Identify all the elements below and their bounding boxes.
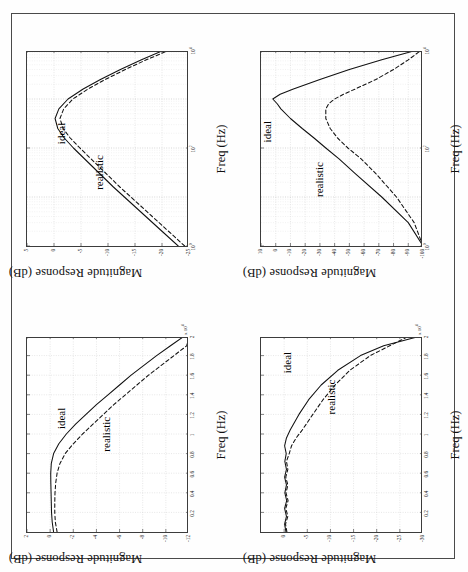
panel-bottom-right-xtick: 1 <box>423 434 429 437</box>
panel-bottom-right-xtick: 0.6 <box>423 471 429 477</box>
panel-bottom-left-xtick: 1.6 <box>189 373 195 379</box>
panel-top-left-xtick: 100 <box>189 244 196 251</box>
panel-bottom-right-xtick: 1.6 <box>423 373 429 379</box>
panel-bottom-right-annotation-realistic: realistic <box>325 379 337 414</box>
panel-top-right-ytick: -40 <box>331 249 337 256</box>
panel-bottom-right-xtick: 2 <box>423 336 429 339</box>
panel-bottom-right-ytick: 0 <box>280 535 286 538</box>
panel-top-right-ytick: -50 <box>345 249 351 256</box>
panel-top-left-ytick: -10 <box>104 249 110 256</box>
panel-top-left-xticks: 100102104 <box>189 51 203 247</box>
panel-bottom-left-xticks: 0.20.40.60.811.21.41.61.82x 104 <box>189 337 203 533</box>
panel-bottom-right-xtick: 0.2 <box>423 510 429 516</box>
panel-bottom-right-ytick: -20 <box>373 535 379 542</box>
panel-top-left-ytick: -15 <box>131 249 137 256</box>
panel-bottom-right-rotated: Magnitude Response (dB) 0-5-10-15-20-25-… <box>252 307 468 572</box>
panel-bottom-left-x-multiplier: x 104 <box>181 324 188 335</box>
panel-top-right-ytick: -70 <box>375 249 381 256</box>
panel-top-right-xtick: 102 <box>423 146 430 153</box>
panel-bottom-left-xtick: 0.6 <box>189 471 195 477</box>
panel-top-left: Magnitude Response (dB) 50-5-10-15-20-25… <box>12 14 246 300</box>
panel-top-left-xlabel: Freq (Hz) <box>214 51 229 247</box>
panel-bottom-right-xtick: 0.8 <box>423 451 429 457</box>
panel-bottom-left-rotated: Magnitude Response (dB) 20-2-4-6-8-10-12… <box>18 307 240 572</box>
panel-top-left-plot-area: idealrealistic <box>26 51 188 247</box>
panel-bottom-left-xtick: 1 <box>189 434 195 437</box>
panel-bottom-left-svg: idealrealistic <box>27 337 188 532</box>
panel-bottom-right-annotation-ideal: ideal <box>281 352 293 373</box>
panel-top-left-svg: idealrealistic <box>27 51 188 246</box>
panel-bottom-left-ytick: -10 <box>162 535 168 542</box>
panel-bottom-left-ytick: -6 <box>116 535 122 539</box>
panel-bottom-right-xlabel: Freq (Hz) <box>448 337 463 533</box>
panel-top-left-xtick: 104 <box>189 48 196 55</box>
panel-bottom-left: Magnitude Response (dB) 20-2-4-6-8-10-12… <box>12 300 246 572</box>
panel-bottom-right-ytick: -15 <box>350 535 356 542</box>
panel-top-right-annotation-realistic: realistic <box>313 162 325 197</box>
panel-bottom-left-ytick: -8 <box>139 535 145 539</box>
panel-top-right: Magnitude Response (dB) 100-10-20-30-40-… <box>246 14 468 300</box>
panel-bottom-left-ytick: -12 <box>185 535 191 542</box>
panel-top-left-ytick: 0 <box>50 249 56 252</box>
panel-top-left-annotation-ideal: ideal <box>55 123 67 144</box>
panel-top-left-ytick: 5 <box>23 249 29 252</box>
panel-bottom-left-xtick: 0.4 <box>189 491 195 497</box>
panel-bottom-left-ytick: 2 <box>23 535 29 538</box>
panel-top-right-xlabel: Freq (Hz) <box>448 51 463 247</box>
panel-bottom-right-xticks: 0.20.40.60.811.21.41.61.82x 104 <box>423 337 437 533</box>
panel-top-left-ytick: -5 <box>77 249 83 253</box>
panel-bottom-left-xtick: 1.2 <box>189 412 195 418</box>
figure-frame: Magnitude Response (dB) 50-5-10-15-20-25… <box>11 13 455 559</box>
panel-bottom-left-xtick: 0.2 <box>189 510 195 516</box>
panel-top-right-xticks: 100102104 <box>423 51 437 247</box>
panel-top-right-ytick: 10 <box>257 249 263 254</box>
panel-bottom-right-xtick: 1.4 <box>423 393 429 399</box>
panel-bottom-left-xlabel: Freq (Hz) <box>214 337 229 533</box>
panel-bottom-left-yticks: 20-2-4-6-8-10-12 <box>26 535 188 565</box>
panel-top-right-xtick: 100 <box>423 244 430 251</box>
panel-bottom-left-plot-area: idealrealistic <box>26 337 188 533</box>
panel-bottom-left-annotation-realistic: realistic <box>100 417 112 452</box>
panel-top-left-xtick: 102 <box>189 146 196 153</box>
panel-top-right-yticks: 100-10-20-30-40-50-60-70-80-90-100 <box>260 249 422 279</box>
panel-bottom-left-annotation-ideal: ideal <box>55 408 67 429</box>
panel-bottom-right-ytick: -30 <box>419 535 425 542</box>
panel-bottom-right-plot-area: idealrealistic <box>260 337 422 533</box>
panel-top-right-ytick: -20 <box>301 249 307 256</box>
panel-bottom-right-xtick: 1.2 <box>423 412 429 418</box>
panel-bottom-right-yticks: 0-5-10-15-20-25-30 <box>260 535 422 565</box>
panel-bottom-left-ytick: -2 <box>69 535 75 539</box>
panel-bottom-right-ytick: -25 <box>396 535 402 542</box>
panel-bottom-left-xtick: 1.4 <box>189 393 195 399</box>
panel-top-right-plot-area: idealrealistic <box>260 51 422 247</box>
panel-bottom-right-xtick: 0.4 <box>423 491 429 497</box>
panel-bottom-right-ytick: -10 <box>326 535 332 542</box>
panel-bottom-left-ytick: 0 <box>46 535 52 538</box>
panel-top-left-annotation-realistic: realistic <box>93 155 105 190</box>
panel-top-right-ytick: -60 <box>360 249 366 256</box>
panel-top-left-ytick: -20 <box>158 249 164 256</box>
panel-top-right-ytick: -90 <box>404 249 410 256</box>
panel-top-right-ytick: -80 <box>390 249 396 256</box>
panel-bottom-right: Magnitude Response (dB) 0-5-10-15-20-25-… <box>246 300 468 572</box>
panel-top-right-svg: idealrealistic <box>261 51 422 246</box>
panel-top-left-yticks: 50-5-10-15-20-25 <box>26 249 188 279</box>
panel-top-right-ytick: -30 <box>316 249 322 256</box>
panel-bottom-right-xtick: 1.8 <box>423 353 429 359</box>
panel-top-right-ytick: -10 <box>286 249 292 256</box>
panel-bottom-right-x-multiplier: x 104 <box>415 324 422 335</box>
scanned-figure-page: Magnitude Response (dB) 50-5-10-15-20-25… <box>0 0 468 572</box>
panel-bottom-right-ytick: -5 <box>303 535 309 539</box>
panel-bottom-left-xtick: 0.8 <box>189 451 195 457</box>
panel-bottom-left-xtick: 1.8 <box>189 353 195 359</box>
panel-top-right-xtick: 104 <box>423 48 430 55</box>
panel-bottom-left-xtick: 2 <box>189 336 195 339</box>
panel-bottom-right-svg: idealrealistic <box>261 337 422 532</box>
panel-top-right-ytick: 0 <box>272 249 278 252</box>
panel-top-left-rotated: Magnitude Response (dB) 50-5-10-15-20-25… <box>18 21 240 293</box>
panel-top-right-annotation-ideal: ideal <box>261 121 273 142</box>
panel-top-right-rotated: Magnitude Response (dB) 100-10-20-30-40-… <box>252 21 468 293</box>
panel-bottom-left-ytick: -4 <box>92 535 98 539</box>
